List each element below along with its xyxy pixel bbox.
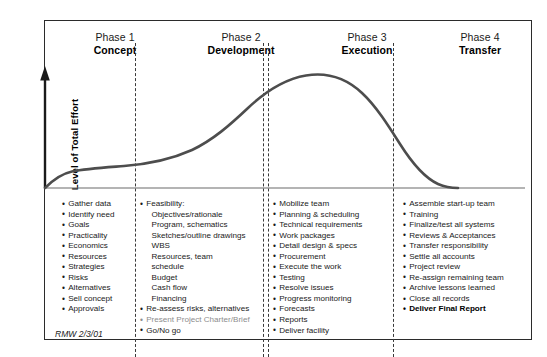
diagram-frame: Phase 1 Concept Phase 2 Development Phas…	[44, 20, 532, 340]
list-item: Deliver Final Report	[403, 304, 504, 315]
list-item: Mobilize team	[273, 199, 362, 210]
phase-number-3: Phase 3	[313, 31, 421, 44]
list-item: Testing	[273, 273, 362, 284]
phase-divider-3	[393, 43, 394, 357]
list-item: Program, schematics	[140, 220, 250, 231]
list-item: Identify need	[62, 210, 115, 221]
list-item: Finalize/test all systems	[403, 220, 504, 231]
list-item: Resources, team	[140, 252, 250, 263]
phase-header-3: Phase 3 Execution	[313, 31, 421, 58]
phase-divider-2b	[268, 43, 269, 357]
list-item: Objectives/rationale	[140, 210, 250, 221]
phase-divider-2a	[263, 43, 264, 357]
list-item: Detail design & specs	[273, 241, 362, 252]
phase-1-item-list: Gather data Identify need Goals Practica…	[62, 199, 115, 315]
list-item: Planning & scheduling	[273, 210, 362, 221]
phase-name-4: Transfer	[430, 44, 530, 57]
author-signature: RMW 2/3/01	[55, 329, 103, 339]
list-item: Transfer responsibility	[403, 241, 504, 252]
list-item: Re-assign remaining team	[403, 273, 504, 284]
list-item: Resources	[62, 252, 115, 263]
list-item: Procurement	[273, 252, 362, 263]
list-item: Sketches/outline drawings	[140, 231, 250, 242]
list-item: Re-assess risks, alternatives	[140, 304, 250, 315]
list-item: Feasibility:	[140, 199, 250, 210]
list-item: Progress monitoring	[273, 294, 362, 305]
list-item: Reviews & Acceptances	[403, 231, 504, 242]
list-item: Deliver facility	[273, 326, 362, 337]
list-item: Archive lessons learned	[403, 283, 504, 294]
phase-3-item-list: Mobilize team Planning & scheduling Tech…	[273, 199, 362, 336]
phase-4-item-list: Assemble start-up team Training Finalize…	[403, 199, 504, 315]
phase-divider-1	[135, 43, 136, 357]
list-item: Strategies	[62, 262, 115, 273]
phase-header-2: Phase 2 Development	[177, 31, 305, 58]
phase-number-4: Phase 4	[430, 31, 530, 44]
list-item: Go/No go	[140, 326, 250, 337]
list-item: Close all records	[403, 294, 504, 305]
phase-2-item-list: Feasibility: Objectives/rationale Progra…	[140, 199, 250, 336]
list-item: Sell concept	[62, 294, 115, 305]
list-item: Reports	[273, 315, 362, 326]
list-item: schedule	[140, 262, 250, 273]
project-life-cycle-diagram: Phase 1 Concept Phase 2 Development Phas…	[0, 0, 547, 357]
list-item: Forecasts	[273, 304, 362, 315]
list-item: Resolve issues	[273, 283, 362, 294]
phase-header-4: Phase 4 Transfer	[430, 31, 530, 58]
list-item: Present Project Charter/Brief	[140, 315, 250, 326]
list-item: Work packages	[273, 231, 362, 242]
list-item: Cash flow	[140, 283, 250, 294]
list-item: Training	[403, 210, 504, 221]
list-item: Financing	[140, 294, 250, 305]
list-item: Settle all accounts	[403, 252, 504, 263]
list-item: Technical requirements	[273, 220, 362, 231]
list-item: Alternatives	[62, 283, 115, 294]
list-item: Approvals	[62, 304, 115, 315]
list-item: WBS	[140, 241, 250, 252]
list-item: Gather data	[62, 199, 115, 210]
list-item: Economics	[62, 241, 115, 252]
list-item: Assemble start-up team	[403, 199, 504, 210]
phase-number-1: Phase 1	[61, 31, 169, 44]
list-item: Practicality	[62, 231, 115, 242]
phase-number-2: Phase 2	[177, 31, 305, 44]
phase-header-1: Phase 1 Concept	[61, 31, 169, 58]
list-item: Execute the work	[273, 262, 362, 273]
list-item: Project review	[403, 262, 504, 273]
phase-name-1: Concept	[61, 44, 169, 57]
list-item: Budget	[140, 273, 250, 284]
y-axis-label: Level of Total Effort	[69, 85, 80, 205]
list-item: Risks	[62, 273, 115, 284]
phase-name-2: Development	[177, 44, 305, 57]
list-item: Goals	[62, 220, 115, 231]
phase-name-3: Execution	[313, 44, 421, 57]
